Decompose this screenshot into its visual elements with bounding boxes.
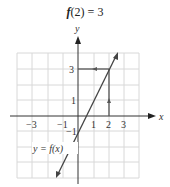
curve-label: y = f(x): [32, 143, 64, 155]
graph: x y −3 −1 1 2 3 3 1 −1 y = f(x): [0, 0, 170, 187]
function-line: [58, 56, 116, 174]
axes: [10, 42, 150, 184]
y-tick: 3: [69, 64, 74, 75]
x-axis-arrow-icon: [148, 113, 156, 119]
y-axis-arrow-icon: [75, 36, 81, 44]
y-tick: 1: [71, 95, 76, 106]
y-tick: −1: [66, 126, 77, 137]
x-tick: 1: [91, 119, 96, 130]
x-axis-label: x: [158, 111, 164, 122]
x-tick: 3: [121, 119, 126, 130]
x-tick: 2: [106, 119, 111, 130]
x-tick: −3: [26, 119, 37, 130]
line-arrow-bottom-icon: [56, 171, 61, 178]
y-axis-label: y: [74, 23, 80, 34]
